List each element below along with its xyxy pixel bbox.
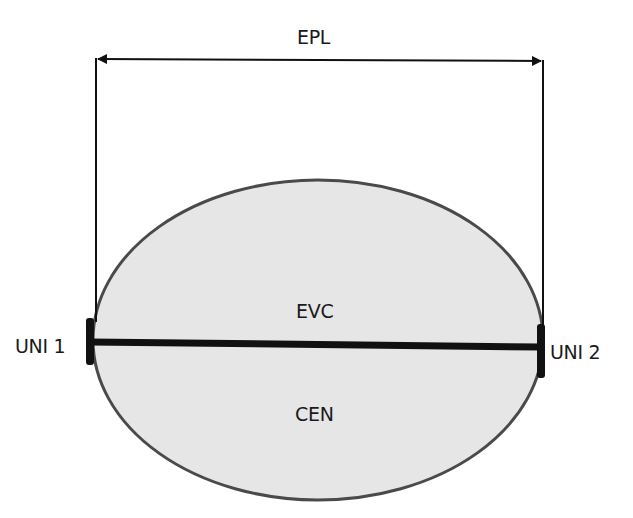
cen-label: CEN [295,403,334,425]
evc-label: EVC [296,300,333,322]
epl-dimension-arrow [98,59,541,61]
uni2-port-bar [537,324,545,378]
uni1-port-bar [86,318,94,365]
uni1-label: UNI 1 [15,335,65,357]
uni2-label: UNI 2 [550,341,600,363]
evc-line [90,342,541,347]
epl-diagram [0,0,633,518]
epl-label: EPL [297,26,330,48]
